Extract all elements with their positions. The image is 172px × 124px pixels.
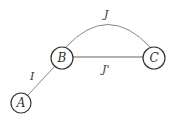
- node-label-a: A: [16, 96, 26, 110]
- edge-label-j: J: [102, 8, 109, 21]
- node-label-b: B: [57, 51, 67, 65]
- node-a: A: [11, 93, 31, 113]
- node-c: C: [143, 47, 165, 69]
- edge-label-i: I: [29, 70, 35, 83]
- node-b: B: [51, 47, 73, 69]
- edge-b-c-arc: [66, 25, 150, 48]
- edge-label-j-prime: J': [100, 63, 109, 76]
- node-label-c: C: [149, 51, 158, 65]
- graph-diagram: I J J' A B C: [0, 0, 172, 124]
